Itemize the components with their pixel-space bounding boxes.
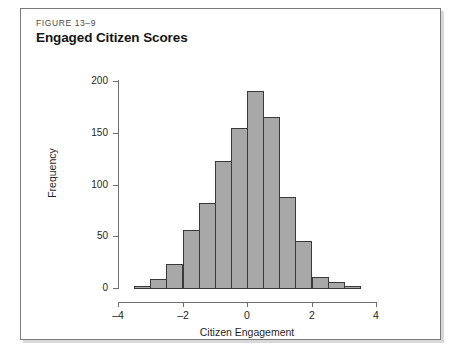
histogram-bar bbox=[215, 161, 232, 289]
histogram-bar bbox=[247, 91, 264, 289]
histogram-bar bbox=[199, 203, 216, 289]
figure-page: FIGURE 13–9 Engaged Citizen Scores 05010… bbox=[0, 0, 463, 354]
histogram-bar bbox=[328, 282, 345, 289]
histogram-bar bbox=[344, 286, 361, 289]
histogram-plot: 050100150200 –4–2024 Citizen Engagement … bbox=[0, 0, 463, 354]
histogram-bars bbox=[0, 0, 463, 354]
histogram-bar bbox=[134, 286, 151, 289]
histogram-bar bbox=[166, 264, 183, 289]
histogram-bar bbox=[231, 128, 248, 289]
histogram-bar bbox=[312, 277, 329, 289]
histogram-bar bbox=[150, 279, 167, 289]
y-axis-title: Frequency bbox=[46, 113, 58, 233]
histogram-bar bbox=[183, 230, 200, 289]
histogram-bar bbox=[295, 241, 312, 289]
histogram-bar bbox=[263, 117, 280, 289]
histogram-bar bbox=[279, 197, 296, 289]
x-axis-title: Citizen Engagement bbox=[118, 326, 376, 338]
